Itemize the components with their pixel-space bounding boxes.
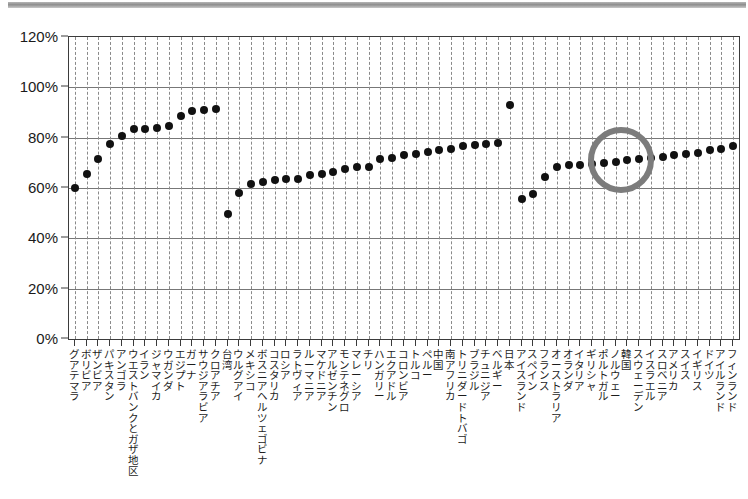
vertical-gridline bbox=[569, 37, 570, 339]
x-axis-tick-mark bbox=[297, 340, 298, 346]
data-point bbox=[224, 210, 232, 218]
scan-edge-bar bbox=[8, 2, 746, 8]
vertical-gridline bbox=[639, 37, 640, 339]
data-point bbox=[153, 124, 161, 132]
data-point bbox=[200, 106, 208, 114]
x-axis-tick-mark bbox=[321, 340, 322, 346]
data-point bbox=[717, 145, 725, 153]
data-point bbox=[282, 175, 290, 183]
x-axis-tick-mark bbox=[250, 340, 251, 346]
data-point bbox=[306, 171, 314, 179]
data-point bbox=[388, 154, 396, 162]
x-axis-tick-mark bbox=[133, 340, 134, 346]
data-point bbox=[106, 140, 114, 148]
x-axis-labels: グアテマラボリビアザンビアパキスタンアンゴラウエストバンクとガザ地区イランジャマ… bbox=[68, 349, 740, 497]
vertical-gridline bbox=[192, 37, 193, 339]
x-axis-tick-mark bbox=[720, 340, 721, 346]
data-point bbox=[141, 125, 149, 133]
x-axis-tick-mark bbox=[168, 340, 169, 346]
chart-page: 0%20%40%60%80%100%120% グアテマラボリビアザンビアパキスタ… bbox=[0, 0, 748, 499]
data-point bbox=[459, 142, 467, 150]
vertical-gridline bbox=[145, 37, 146, 339]
vertical-gridline bbox=[392, 37, 393, 339]
data-point bbox=[353, 163, 361, 171]
x-axis-tick-mark bbox=[732, 340, 733, 346]
data-point bbox=[670, 151, 678, 159]
x-axis-tick-mark bbox=[285, 340, 286, 346]
x-axis-tick-mark bbox=[415, 340, 416, 346]
data-point bbox=[482, 140, 490, 148]
vertical-gridline bbox=[380, 37, 381, 339]
x-axis-tick-mark bbox=[497, 340, 498, 346]
x-axis-tick-mark bbox=[391, 340, 392, 346]
y-axis-tick-label: 0% bbox=[36, 330, 58, 347]
y-axis-tick-mark bbox=[61, 136, 68, 137]
data-point bbox=[471, 141, 479, 149]
highlight-circle-annotation bbox=[588, 127, 654, 193]
x-axis-tick-mark bbox=[709, 340, 710, 346]
x-axis-tick-mark bbox=[121, 340, 122, 346]
data-point bbox=[212, 105, 220, 113]
y-axis-tick-mark bbox=[61, 338, 68, 339]
vertical-gridline bbox=[522, 37, 523, 339]
data-point bbox=[94, 155, 102, 163]
data-point bbox=[376, 155, 384, 163]
vertical-gridline bbox=[357, 37, 358, 339]
x-axis-tick-mark bbox=[191, 340, 192, 346]
x-axis-tick-mark bbox=[603, 340, 604, 346]
x-axis-tick-mark bbox=[544, 340, 545, 346]
vertical-gridline bbox=[275, 37, 276, 339]
x-axis-tick-mark bbox=[215, 340, 216, 346]
vertical-gridline bbox=[110, 37, 111, 339]
x-axis-tick-mark bbox=[615, 340, 616, 346]
x-axis-tick-mark bbox=[274, 340, 275, 346]
x-axis-tick-mark bbox=[427, 340, 428, 346]
vertical-gridline bbox=[674, 37, 675, 339]
vertical-gridline bbox=[416, 37, 417, 339]
data-point bbox=[365, 163, 373, 171]
data-point bbox=[118, 132, 126, 140]
vertical-gridline bbox=[228, 37, 229, 339]
y-axis: 0%20%40%60%80%100%120% bbox=[0, 36, 68, 340]
data-point bbox=[494, 139, 502, 147]
x-axis-tick-mark bbox=[97, 340, 98, 346]
x-axis-tick-mark bbox=[474, 340, 475, 346]
data-point bbox=[565, 161, 573, 169]
y-axis-tick-mark bbox=[61, 287, 68, 288]
x-axis-tick-mark bbox=[438, 340, 439, 346]
data-point bbox=[177, 112, 185, 120]
x-axis-category-label: フィンランド bbox=[726, 349, 739, 413]
vertical-gridline bbox=[369, 37, 370, 339]
vertical-gridline bbox=[545, 37, 546, 339]
vertical-gridline bbox=[322, 37, 323, 339]
data-point bbox=[659, 153, 667, 161]
data-point bbox=[424, 148, 432, 156]
x-axis-tick-mark bbox=[109, 340, 110, 346]
data-point bbox=[682, 150, 690, 158]
vertical-gridline bbox=[733, 37, 734, 339]
x-axis-tick-mark bbox=[673, 340, 674, 346]
x-axis-ticks bbox=[68, 340, 740, 347]
vertical-gridline bbox=[169, 37, 170, 339]
vertical-gridline bbox=[686, 37, 687, 339]
vertical-gridline bbox=[345, 37, 346, 339]
y-axis-tick-label: 60% bbox=[28, 179, 58, 196]
vertical-gridline bbox=[651, 37, 652, 339]
x-axis-tick-mark bbox=[485, 340, 486, 346]
y-axis-tick-label: 20% bbox=[28, 279, 58, 296]
data-point bbox=[553, 163, 561, 171]
vertical-gridline bbox=[498, 37, 499, 339]
x-axis-tick-mark bbox=[509, 340, 510, 346]
x-axis-tick-mark bbox=[626, 340, 627, 346]
vertical-gridline bbox=[557, 37, 558, 339]
data-point bbox=[329, 168, 337, 176]
x-axis-tick-mark bbox=[650, 340, 651, 346]
data-point bbox=[341, 165, 349, 173]
x-axis-tick-mark bbox=[180, 340, 181, 346]
vertical-gridline bbox=[486, 37, 487, 339]
x-axis-tick-mark bbox=[579, 340, 580, 346]
data-point bbox=[518, 195, 526, 203]
x-axis-tick-mark bbox=[86, 340, 87, 346]
data-point bbox=[188, 107, 196, 115]
y-axis-tick-mark bbox=[61, 86, 68, 87]
